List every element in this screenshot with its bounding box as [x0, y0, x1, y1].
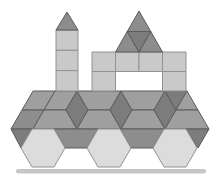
cab-square-top-4 — [163, 52, 187, 72]
tower-square-1 — [56, 30, 78, 50]
pattern-blocks-figure — [0, 0, 216, 176]
pattern-blocks-canvas — [0, 0, 216, 176]
cab-roof-triangle-top — [127, 11, 151, 32]
cab-square-top-2 — [116, 52, 140, 72]
cab-square-top-3 — [139, 52, 163, 72]
ground-line — [16, 169, 206, 174]
cab-square-left — [92, 72, 116, 92]
tower-square-2 — [56, 50, 78, 70]
cab-square-right — [163, 72, 187, 92]
tower-square-3 — [56, 71, 78, 91]
cab-square-top-1 — [92, 52, 116, 72]
tower-roof-triangle — [56, 12, 78, 30]
